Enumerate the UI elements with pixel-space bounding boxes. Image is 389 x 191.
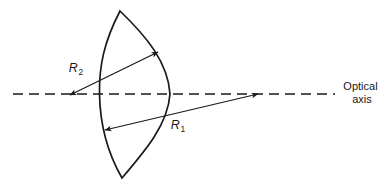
radius-r1-subscript: 1 <box>180 124 185 134</box>
radius-r2-symbol: R <box>69 61 78 75</box>
figure-background <box>0 0 389 191</box>
radius-r1-symbol: R <box>171 118 180 132</box>
lens-diagram: R2 R1 Optical axis <box>0 0 389 191</box>
optical-axis-caption-line2: axis <box>352 93 372 105</box>
optics-figure: R2 R1 Optical axis <box>0 0 389 191</box>
optical-axis-caption-line1: Optical <box>343 80 377 92</box>
radius-r2-subscript: 2 <box>78 67 83 77</box>
